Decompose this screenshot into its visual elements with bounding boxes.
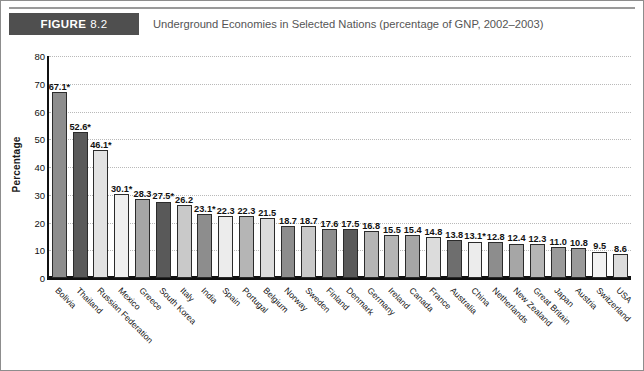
bar-value-label: 15.4: [404, 226, 422, 235]
y-tick-50: 50: [21, 134, 45, 145]
figure-word-label: FIGURE: [40, 18, 86, 30]
bar[interactable]: 9.5: [592, 252, 607, 278]
bar[interactable]: 13.1*: [468, 242, 483, 278]
bar-value-label: 9.5: [593, 242, 606, 251]
bar-slot: 52.6*: [70, 56, 91, 278]
bar-value-label: 28.3: [134, 190, 152, 199]
figure-number-badge: FIGURE 8.2: [9, 13, 139, 35]
bar-value-label: 67.1*: [49, 83, 70, 92]
bar-slot: 12.8: [485, 56, 506, 278]
category-slot: Netherlands: [485, 282, 506, 368]
bar[interactable]: 27.5*: [156, 202, 171, 278]
category-slot: Mexico: [111, 282, 132, 368]
bar[interactable]: 67.1*: [52, 92, 67, 278]
bar-value-label: 30.1*: [111, 185, 132, 194]
bar-slot: 11.0: [548, 56, 569, 278]
figure-title: Underground Economies in Selected Nation…: [153, 13, 543, 35]
y-tick-40: 40: [21, 162, 45, 173]
bar[interactable]: 12.3: [530, 244, 545, 278]
category-slot: Italy: [174, 282, 195, 368]
category-slot: Great Britain: [527, 282, 548, 368]
chart-plot-area: Percentage 80 70 60 50 40 30 20 10 0 67.…: [1, 41, 643, 370]
bar-value-label: 8.6: [614, 245, 627, 254]
bar[interactable]: 18.7: [281, 226, 296, 278]
bar[interactable]: 12.8: [488, 242, 503, 278]
category-slot: Spain: [215, 282, 236, 368]
bar-value-label: 13.8: [445, 231, 463, 240]
category-slot: Belgium: [257, 282, 278, 368]
bar[interactable]: 10.8: [571, 248, 586, 278]
bar[interactable]: 22.3: [239, 216, 254, 278]
bar-slot: 12.3: [527, 56, 548, 278]
bar-value-label: 13.1*: [464, 232, 485, 241]
category-slot: Norway: [278, 282, 299, 368]
category-slot: Ireland: [382, 282, 403, 368]
y-tick-20: 20: [21, 217, 45, 228]
bar[interactable]: 21.5: [260, 218, 275, 278]
bar-slot: 12.4: [506, 56, 527, 278]
y-tick-30: 30: [21, 189, 45, 200]
bar[interactable]: 46.1*: [93, 150, 108, 278]
bar-slot: 17.6: [319, 56, 340, 278]
y-axis-tick-labels: 80 70 60 50 40 30 20 10 0: [21, 41, 45, 291]
category-slot: South Korea: [153, 282, 174, 368]
figure-header: FIGURE 8.2 Underground Economies in Sele…: [1, 1, 643, 41]
bar-slot: 13.1*: [465, 56, 486, 278]
bar[interactable]: 30.1*: [114, 194, 129, 278]
bar[interactable]: 52.6*: [73, 132, 88, 278]
y-axis-title: Percentage: [11, 120, 22, 210]
bar[interactable]: 11.0: [551, 247, 566, 278]
figure-number-label: 8.2: [90, 18, 107, 30]
bar-value-label: 17.6: [321, 220, 339, 229]
category-slot: Russian Federation: [91, 282, 112, 368]
bar-slot: 16.8: [361, 56, 382, 278]
bar[interactable]: 17.6: [322, 229, 337, 278]
bar-value-label: 27.5*: [153, 192, 174, 201]
category-slot: Sweden: [298, 282, 319, 368]
bar[interactable]: 26.2: [177, 205, 192, 278]
bar-value-label: 15.5: [383, 226, 401, 235]
category-slot: India: [194, 282, 215, 368]
bar-slot: 18.7: [298, 56, 319, 278]
bar-value-label: 12.3: [528, 235, 546, 244]
figure-container: FIGURE 8.2 Underground Economies in Sele…: [0, 0, 644, 371]
x-axis-category-labels: BoliviaThailandRussian FederationMexicoG…: [49, 282, 631, 368]
category-slot: Denmark: [340, 282, 361, 368]
y-tick-0: 0: [21, 273, 45, 284]
category-slot: Greece: [132, 282, 153, 368]
bar[interactable]: 28.3: [135, 199, 150, 278]
bar-slot: 46.1*: [91, 56, 112, 278]
bar[interactable]: 17.5: [343, 229, 358, 278]
bar[interactable]: 15.4: [405, 235, 420, 278]
bar[interactable]: 22.3: [218, 216, 233, 278]
category-slot: China: [465, 282, 486, 368]
x-axis-label: USA: [615, 285, 635, 305]
bar-slot: 17.5: [340, 56, 361, 278]
bar-value-label: 46.1*: [90, 141, 111, 150]
bar-slot: 27.5*: [153, 56, 174, 278]
bar[interactable]: 14.8: [426, 237, 441, 278]
category-slot: Austria: [569, 282, 590, 368]
bar-value-label: 16.8: [362, 222, 380, 231]
bar-slot: 13.8: [444, 56, 465, 278]
category-slot: USA: [610, 282, 631, 368]
bar-slot: 9.5: [589, 56, 610, 278]
bar-slot: 8.6: [610, 56, 631, 278]
bar[interactable]: 23.1*: [197, 214, 212, 278]
bar-value-label: 11.0: [549, 238, 566, 247]
bar[interactable]: 16.8: [364, 231, 379, 278]
bar[interactable]: 12.4: [509, 244, 524, 278]
bar[interactable]: 15.5: [384, 235, 399, 278]
category-slot: France: [423, 282, 444, 368]
category-slot: Finland: [319, 282, 340, 368]
bar[interactable]: 8.6: [613, 254, 628, 278]
bar[interactable]: 13.8: [447, 240, 462, 278]
bar-value-label: 22.3: [217, 207, 235, 216]
bar-value-label: 26.2: [175, 196, 193, 205]
bar[interactable]: 18.7: [301, 226, 316, 278]
bar-value-label: 18.7: [300, 217, 318, 226]
y-tick-10: 10: [21, 245, 45, 256]
bar-value-label: 10.8: [570, 239, 588, 248]
bar-slot: 67.1*: [49, 56, 70, 278]
bar-value-label: 22.3: [237, 207, 255, 216]
